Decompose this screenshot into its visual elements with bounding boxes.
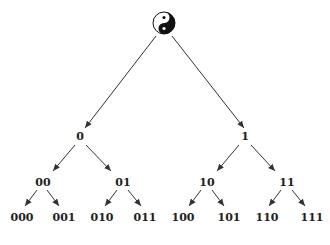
- tree-edges: [25, 36, 305, 206]
- node-000: 000: [11, 211, 34, 224]
- node-10: 10: [199, 176, 215, 189]
- node-010: 010: [91, 211, 114, 224]
- arrow-10-to-101: [212, 190, 224, 206]
- arrow-10-to-100: [189, 190, 201, 206]
- node-00: 00: [35, 176, 51, 189]
- arrow-1-to-10: [217, 145, 239, 171]
- arrow-0-to-01: [86, 145, 111, 171]
- arrow-00-to-001: [47, 190, 59, 206]
- arrow-11-to-110: [269, 190, 281, 206]
- arrow-root-to-0: [85, 36, 156, 128]
- node-11: 11: [279, 176, 294, 189]
- node-0: 0: [76, 130, 84, 143]
- node-1: 1: [241, 130, 249, 143]
- node-111: 111: [301, 211, 324, 224]
- yin-yang-icon: [153, 12, 175, 34]
- arrow-01-to-010: [105, 190, 117, 206]
- arrow-00-to-000: [25, 190, 37, 206]
- tree-nodes: 0100011011000001010011100101110111: [11, 130, 324, 224]
- node-01: 01: [115, 176, 130, 189]
- node-011: 011: [134, 211, 157, 224]
- node-001: 001: [53, 211, 76, 224]
- arrow-0-to-00: [53, 145, 75, 171]
- node-100: 100: [172, 211, 195, 224]
- binary-tree-diagram: 0100011011000001010011100101110111: [0, 0, 330, 245]
- node-110: 110: [256, 211, 279, 224]
- arrow-01-to-011: [128, 190, 141, 206]
- arrow-1-to-11: [251, 145, 275, 171]
- arrow-11-to-111: [292, 190, 305, 206]
- node-101: 101: [218, 211, 241, 224]
- arrow-root-to-1: [172, 36, 244, 128]
